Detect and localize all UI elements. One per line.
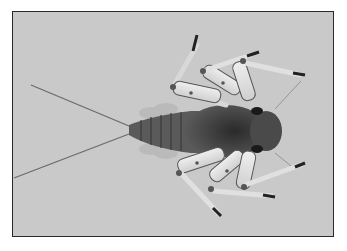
tail-filaments (14, 85, 129, 178)
insect-nymph-illustration (13, 12, 334, 237)
head (250, 111, 282, 151)
eye-left (251, 107, 263, 115)
photo-frame: Photograph of an aquatic insect nymph wi… (12, 11, 334, 237)
